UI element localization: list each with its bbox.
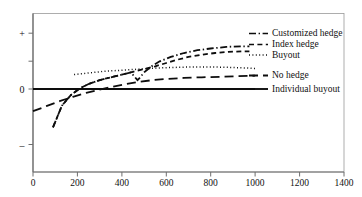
legend-line-samples: [249, 34, 268, 90]
legend-item-index-hedge[interactable]: Index hedge: [272, 39, 319, 50]
legend-item-customized-hedge[interactable]: Customized hedge: [272, 28, 342, 39]
legend-item-individual-buyout[interactable]: Individual buyout: [272, 84, 340, 95]
series-no-hedge: [33, 76, 255, 112]
series-customized-hedge: [53, 46, 249, 127]
chart-figure: Customized hedge Index hedge Buyout No h…: [0, 0, 362, 197]
legend-item-buyout[interactable]: Buyout: [272, 50, 300, 61]
legend-item-no-hedge[interactable]: No hedge: [272, 70, 309, 81]
legend-label-customized-hedge: Customized hedge: [272, 28, 342, 38]
legend-label-individual-buyout: Individual buyout: [272, 84, 340, 94]
series-buyout: [74, 67, 255, 75]
series-layer: [33, 46, 255, 127]
legend-label-index-hedge: Index hedge: [272, 39, 319, 49]
legend-label-buyout: Buyout: [272, 50, 300, 60]
legend-label-no-hedge: No hedge: [272, 70, 309, 80]
